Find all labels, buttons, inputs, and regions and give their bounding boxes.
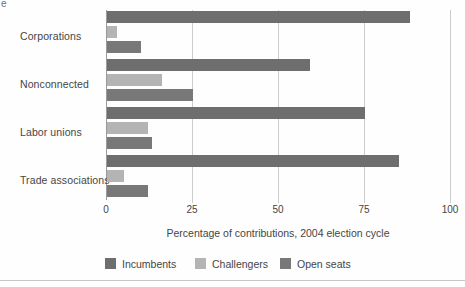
bar-challengers	[107, 26, 117, 38]
bar-incumbents	[107, 155, 399, 167]
bar-open_seats	[107, 137, 152, 149]
category-label: Trade associations	[20, 174, 104, 186]
legend-label: Open seats	[297, 258, 351, 270]
x-tick-label-100: 100	[442, 204, 459, 215]
bar-open_seats	[107, 185, 148, 197]
x-tick-label-0: 0	[103, 204, 109, 215]
category-label: Corporations	[20, 30, 104, 42]
x-axis-label: Percentage of contributions, 2004 electi…	[106, 227, 450, 239]
category-label: Nonconnected	[20, 78, 104, 90]
cropped-text-fragment: e	[1, 0, 7, 9]
bar-challengers	[107, 122, 148, 134]
x-tick-label-75: 75	[358, 204, 369, 215]
bar-challengers	[107, 170, 124, 182]
bar-incumbents	[107, 11, 410, 23]
bar-open_seats	[107, 89, 193, 101]
bar-incumbents	[107, 59, 310, 71]
figure-grouped-bar-chart: e 0255075100CorporationsNonconnectedLabo…	[0, 0, 465, 287]
legend-swatch-open_seats	[280, 258, 291, 269]
legend-label: Challengers	[212, 258, 268, 270]
legend-label: Incumbents	[122, 258, 176, 270]
bar-challengers	[107, 74, 162, 86]
x-tick-label-25: 25	[186, 204, 197, 215]
bar-open_seats	[107, 41, 141, 53]
category-label: Labor unions	[20, 126, 104, 138]
bottom-rule	[0, 280, 465, 281]
bar-incumbents	[107, 107, 365, 119]
legend-swatch-challengers	[195, 258, 206, 269]
legend-item-open_seats: Open seats	[280, 254, 351, 266]
legend-item-challengers: Challengers	[195, 254, 268, 266]
legend-swatch-incumbents	[105, 258, 116, 269]
x-tick-label-50: 50	[272, 204, 283, 215]
legend-item-incumbents: Incumbents	[105, 254, 176, 266]
gridline-100	[450, 10, 451, 203]
